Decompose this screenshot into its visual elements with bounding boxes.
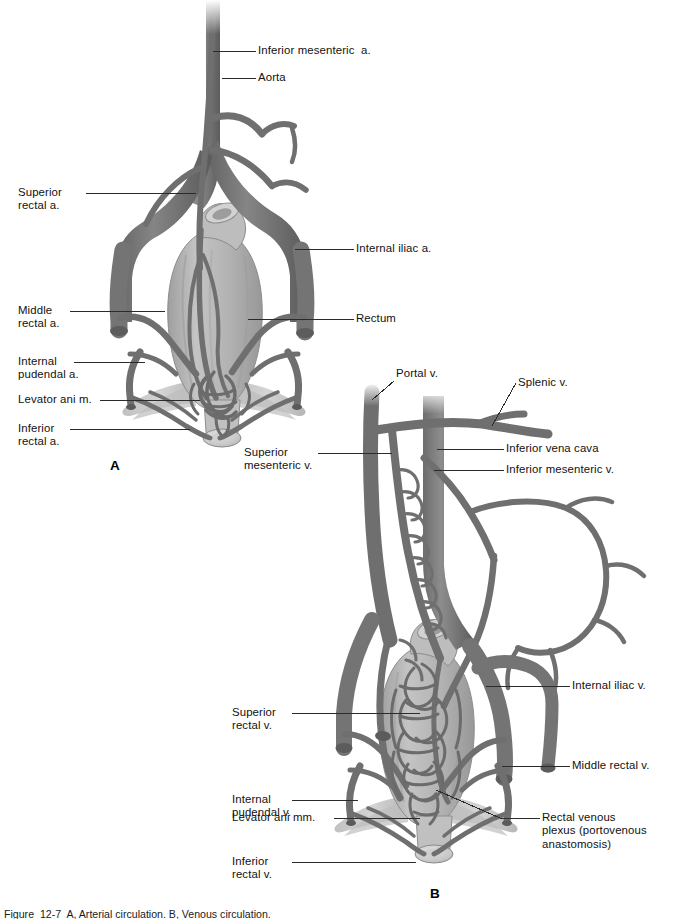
- label-inferior-rectal-v: Inferior rectal v.: [232, 855, 272, 882]
- label-inferior-vena-cava: Inferior vena cava: [506, 442, 599, 455]
- label-levator-ani-m: Levator ani m.: [18, 393, 92, 406]
- label-rectum: Rectum: [356, 312, 396, 325]
- rectum-a: [168, 230, 263, 410]
- label-middle-rectal-a: Middle rectal a.: [18, 304, 60, 331]
- label-portal-v: Portal v.: [396, 367, 438, 380]
- label-superior-rectal-a: Superior rectal a.: [18, 186, 62, 213]
- label-inferior-mesenteric-v: Inferior mesenteric v.: [506, 463, 614, 476]
- label-middle-rectal-v: Middle rectal v.: [572, 759, 650, 772]
- label-levator-ani-mm: Levator ani mm.: [232, 811, 315, 824]
- anatomy-illustration: [0, 0, 676, 919]
- panel-a-artwork: [110, 0, 314, 447]
- label-internal-iliac-a: Internal iliac a.: [356, 242, 431, 255]
- label-superior-rectal-v: Superior rectal v.: [232, 706, 276, 733]
- label-internal-iliac-v: Internal iliac v.: [572, 679, 646, 692]
- panel-letter-b: B: [430, 886, 440, 901]
- label-rectal-venous-plexus: Rectal venous plexus (portovenous anasto…: [542, 811, 647, 851]
- splenic-v-vessel: [376, 422, 548, 434]
- label-inferior-rectal-a: Inferior rectal a.: [18, 422, 60, 449]
- label-splenic-v: Splenic v.: [518, 376, 568, 389]
- inferior-vena-cava: [423, 396, 474, 650]
- label-inferior-mesenteric-a: Inferior mesenteric a.: [258, 44, 371, 57]
- label-internal-pudendal-a: Internal pudendal a.: [18, 355, 79, 382]
- leader-splenic-v: [492, 383, 516, 426]
- figure-canvas: Inferior mesenteric a. Aorta Internal il…: [0, 0, 676, 919]
- label-superior-mesenteric-v: Superior mesenteric v.: [244, 446, 312, 473]
- panel-letter-a: A: [110, 458, 120, 473]
- internal-iliac-v-left: [344, 620, 372, 748]
- label-aorta: Aorta: [258, 71, 286, 84]
- figure-caption: Figure 12-7 A, Arterial circulation. B, …: [4, 908, 271, 919]
